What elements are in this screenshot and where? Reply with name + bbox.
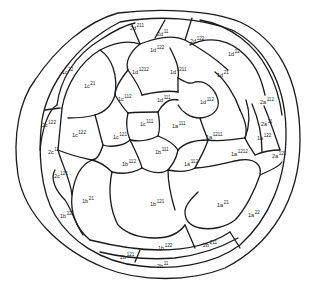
cell-label-1c22: 1c22	[62, 68, 73, 76]
cell-label-base: 1b	[155, 149, 161, 155]
cell-label-superscript: 122	[48, 120, 56, 125]
cell-label-base: 1c	[84, 83, 90, 89]
inner-boundary	[40, 18, 286, 267]
cell-label-base: 1a	[248, 212, 254, 218]
cell-label-1b121: 1b121	[150, 200, 164, 208]
cell-label-base: 1a	[231, 151, 237, 157]
cell-label-1d1212: 1d1212	[132, 68, 149, 76]
cell-label-1a22: 1a22	[248, 211, 260, 219]
cell-label-1b112: 1b112	[122, 160, 136, 168]
cell-label-base: 1d	[157, 97, 163, 103]
cell-label-base: 1a	[217, 202, 223, 208]
cell-label-base: 1a	[172, 123, 178, 129]
cell-label-superscript: 112	[207, 97, 214, 102]
cell-label-base: 1c	[140, 121, 146, 127]
cell-label-superscript: 11	[268, 119, 273, 124]
cell-label-superscript: 22	[235, 49, 240, 54]
cell-label-base: 1b	[150, 201, 156, 207]
cell-label-superscript: 121	[60, 171, 68, 176]
cell-label-base: 1b	[82, 198, 88, 204]
cell-label-1c111: 1c111	[140, 120, 153, 128]
cell-label-superscript: 122	[78, 130, 86, 135]
cell-label-1c21: 1c21	[84, 82, 95, 90]
cell-label-1b122: 1b122	[158, 244, 172, 252]
cell-label-superscript: 112	[191, 159, 198, 164]
embryo-cell-diagram	[0, 0, 310, 287]
cell-label-1d21: 1d21	[217, 71, 229, 79]
cell-label-base: 2b	[203, 242, 209, 248]
cell-label-base: 1d	[217, 72, 223, 78]
cell-label-1d1211: 1d1211	[170, 68, 187, 76]
cell-label-base: 2c	[42, 122, 48, 128]
cell-label-superscript: 1212	[139, 67, 149, 72]
cell-label-1b22: 1b22	[60, 212, 72, 220]
cell-label-superscript: 121	[127, 252, 135, 257]
cell-label-base: 2b	[157, 263, 163, 269]
cell-label-superscript: 21	[224, 200, 229, 205]
cell-label-1c121: 1c121	[113, 133, 127, 141]
cell-label-superscript: 11	[164, 261, 169, 266]
cell-label-2c121: 2c121	[54, 172, 68, 180]
cell-label-base: 1a	[184, 161, 190, 167]
cell-label-1d122: 1d122	[150, 46, 164, 54]
cell-label-superscript: 112	[267, 97, 274, 102]
cell-label-superscript: 1211	[177, 67, 187, 72]
cell-label-base: 2a	[261, 121, 267, 127]
cell-label-base: 1b	[60, 213, 66, 219]
cell-label-superscript: 112	[129, 159, 136, 164]
cell-label-1a21: 1a21	[217, 201, 229, 209]
cell-label-superscript: 111	[179, 121, 186, 126]
cell-label-base: 2d	[157, 31, 163, 37]
cell-label-2d12: 2d122	[190, 37, 204, 45]
cell-label-2d211: 2d211	[130, 24, 144, 32]
cell-label-2b121: 2b121	[120, 253, 134, 261]
cell-label-2c11: 2c11	[48, 148, 59, 156]
cell-label-superscript: 211	[137, 23, 144, 28]
cell-label-superscript: 1211	[213, 132, 223, 137]
cell-label-base: 2a	[260, 99, 266, 105]
cell-label-1c122: 1c122	[72, 131, 86, 139]
cell-label-1a112: 1a112	[184, 160, 198, 168]
cell-label-1d22: 1d22	[228, 50, 240, 58]
cell-label-1c112: 1c112	[118, 95, 132, 103]
cell-label-2b11: 2b11	[157, 262, 168, 270]
cell-label-superscript: 22	[255, 210, 260, 215]
cell-label-superscript: 1212	[238, 149, 248, 154]
cell-label-base: 2d	[190, 38, 196, 44]
cell-label-1d111: 1d111	[157, 96, 171, 104]
cell-label-2d11: 2d11	[157, 30, 168, 38]
cell-label-2b211: 2b211	[203, 241, 217, 249]
cell-label-base: 1c	[72, 132, 78, 138]
cell-label-superscript: 111	[162, 147, 169, 152]
cell-label-base: 2b	[120, 254, 126, 260]
cell-label-superscript: 21	[90, 81, 95, 86]
cell-label-base: 2c	[54, 173, 60, 179]
cell-label-base: 2d	[130, 25, 136, 31]
cell-label-base: 1c	[113, 134, 119, 140]
cell-label-superscript: 111	[146, 119, 153, 124]
cell-label-1a111: 1a111	[172, 122, 186, 130]
cell-label-1a1212: 1a1212	[231, 150, 248, 158]
cell-label-superscript: 211	[210, 240, 217, 245]
cell-label-base: 2c	[48, 149, 54, 155]
cell-label-base: 1d	[200, 99, 206, 105]
cell-label-superscript: 112	[124, 94, 131, 99]
cell-label-superscript: 22	[68, 67, 73, 72]
cell-label-base: 1c	[118, 96, 124, 102]
cell-label-superscript: 121	[157, 199, 165, 204]
cell-label-superscript: 121	[279, 151, 287, 156]
cell-label-1b21: 1b21	[82, 197, 94, 205]
cell-label-2a112: 2a112	[260, 98, 274, 106]
cell-label-superscript: 111	[164, 95, 171, 100]
cell-label-1d112: 1d112	[200, 98, 214, 106]
cell-label-base: 1b	[122, 161, 128, 167]
cell-label-base: 1a	[257, 135, 263, 141]
cell-label-1a1211: 1a1211	[206, 133, 223, 141]
cell-label-superscript: 122	[197, 36, 205, 41]
cell-label-1a122: 1a122	[257, 134, 271, 142]
cell-label-superscript: 21	[224, 70, 229, 75]
cell-label-superscript: 11	[54, 147, 59, 152]
cell-label-base: 1d	[170, 69, 176, 75]
cell-label-base: 2a	[272, 153, 278, 159]
cell-label-superscript: 122	[264, 133, 272, 138]
